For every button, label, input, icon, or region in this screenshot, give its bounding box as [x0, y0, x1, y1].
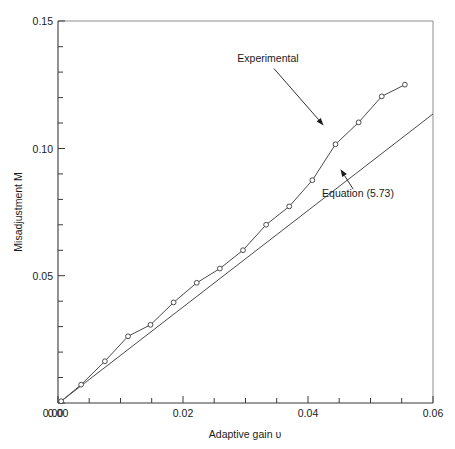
y-tick-label-015: 0.15 — [33, 15, 54, 27]
x-tick-label-002: 0.02 — [173, 407, 194, 419]
x-tick-label-004: 0.04 — [298, 407, 319, 419]
y-tick-label-010: 0.10 — [33, 143, 54, 155]
data-point-marker — [402, 82, 407, 87]
annotation-experimental: Experimental — [237, 52, 323, 126]
data-point-marker — [310, 178, 315, 183]
y-axis-ticks — [58, 21, 65, 403]
x-tick-label-000: 0.00 — [48, 407, 69, 419]
y-axis-title: Misadjustment M — [12, 172, 24, 251]
equation-polyline — [61, 114, 433, 401]
figure-container: 0.15 0.10 0.05 0.00 0.00 0.02 0.04 0.06 … — [0, 0, 455, 449]
plot-frame — [58, 21, 433, 403]
x-tick-label-006: 0.06 — [423, 407, 444, 419]
data-point-marker — [264, 222, 269, 227]
data-point-marker — [102, 359, 107, 364]
experimental-markers — [59, 82, 408, 403]
misadjustment-vs-adaptive-gain-chart: 0.15 0.10 0.05 0.00 0.00 0.02 0.04 0.06 … — [0, 0, 455, 449]
data-point-marker — [59, 399, 64, 404]
series-equation-line — [61, 114, 433, 401]
data-point-marker — [287, 204, 292, 209]
annotation-equation-arrowhead — [341, 169, 347, 177]
data-point-marker — [241, 248, 246, 253]
data-point-marker — [126, 334, 131, 339]
data-point-marker — [217, 266, 222, 271]
x-axis-title: Adaptive gain υ — [209, 428, 282, 440]
annotation-experimental-label: Experimental — [237, 52, 298, 64]
data-point-marker — [356, 120, 361, 125]
experimental-polyline — [61, 85, 405, 402]
x-axis-ticks — [58, 396, 433, 403]
annotation-experimental-leader — [274, 69, 319, 120]
data-point-marker — [379, 94, 384, 99]
annotation-equation-label: Equation (5.73) — [322, 187, 394, 199]
data-point-marker — [171, 300, 176, 305]
y-tick-label-005: 0.05 — [33, 270, 54, 282]
data-point-marker — [79, 382, 84, 387]
annotation-equation: Equation (5.73) — [322, 169, 394, 199]
data-point-marker — [194, 280, 199, 285]
data-point-marker — [333, 142, 338, 147]
data-point-marker — [148, 322, 153, 327]
series-experimental — [59, 82, 408, 403]
